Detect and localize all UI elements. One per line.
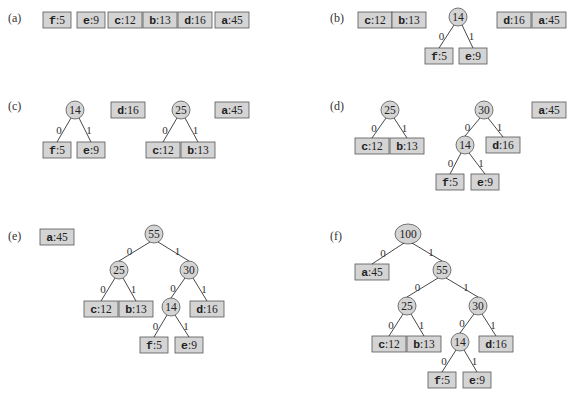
- svg-text:c:12: c:12: [152, 144, 174, 157]
- internal-node-30: 30: [469, 297, 487, 315]
- edge-bit: 1: [131, 283, 137, 295]
- svg-text:a:45: a:45: [221, 14, 243, 27]
- tree-edge: [119, 242, 150, 261]
- svg-text:f:5: f:5: [49, 14, 65, 27]
- edge-bit: 0: [153, 320, 159, 332]
- svg-text:14: 14: [459, 139, 471, 151]
- leaf-node-a: a:45: [355, 264, 389, 280]
- internal-node-14: 14: [162, 298, 180, 316]
- svg-text:30: 30: [478, 104, 490, 116]
- leaf-node-f: f:5: [140, 337, 168, 353]
- panel-label: (a): [8, 11, 21, 25]
- svg-text:14: 14: [454, 336, 466, 348]
- leaf-node-c: c:12: [84, 301, 118, 317]
- svg-text:14: 14: [452, 11, 464, 23]
- edge-bit: 1: [419, 319, 425, 331]
- internal-node-25: 25: [381, 101, 399, 119]
- svg-text:55: 55: [148, 228, 160, 240]
- svg-text:25: 25: [175, 104, 187, 116]
- internal-node-30: 30: [475, 101, 493, 119]
- svg-text:f:5: f:5: [49, 144, 65, 157]
- edge-bit: 0: [415, 281, 421, 293]
- panel-label: (f): [330, 229, 342, 243]
- internal-node-55: 55: [433, 261, 451, 279]
- svg-text:b:13: b:13: [413, 338, 435, 351]
- panel-label: (b): [330, 11, 344, 25]
- panel-label: (d): [330, 99, 344, 113]
- leaf-node-f: f:5: [425, 48, 453, 64]
- leaf-node-b: b:13: [143, 12, 177, 28]
- leaf-node-a: a:45: [40, 229, 74, 245]
- edge-bit: 0: [448, 157, 454, 169]
- svg-text:a:45: a:45: [538, 14, 560, 27]
- svg-text:30: 30: [183, 264, 195, 276]
- leaf-node-c: c:12: [108, 12, 142, 28]
- svg-text:d:16: d:16: [196, 303, 218, 316]
- svg-text:a:45: a:45: [361, 266, 383, 279]
- svg-text:e:9: e:9: [477, 176, 493, 189]
- svg-text:c:12: c:12: [378, 338, 400, 351]
- edge-bit: 0: [127, 245, 133, 257]
- internal-node-14: 14: [449, 8, 467, 26]
- leaf-node-e: e:9: [459, 48, 487, 64]
- tree-edge: [372, 243, 404, 264]
- leaf-node-b: b:13: [119, 301, 153, 317]
- edge-bit: 1: [469, 30, 475, 42]
- edge-bit: 0: [371, 122, 377, 134]
- svg-text:d:16: d:16: [503, 14, 525, 27]
- edge-bit: 1: [86, 124, 92, 136]
- edge-bit: 0: [439, 30, 445, 42]
- svg-text:30: 30: [472, 300, 484, 312]
- edge-bit: 1: [497, 121, 503, 133]
- edge-bit: 0: [100, 283, 106, 295]
- svg-text:a:45: a:45: [46, 231, 68, 244]
- edge-bit: 1: [478, 157, 484, 169]
- edge-bit: 1: [193, 124, 199, 136]
- leaf-node-e: e:9: [471, 174, 499, 190]
- tree-edge: [446, 278, 478, 297]
- edge-bit: 0: [170, 282, 176, 294]
- leaf-node-f: f:5: [43, 12, 71, 28]
- panel-label: (e): [8, 229, 21, 243]
- edge-bit: 0: [441, 355, 447, 367]
- huffman-diagram: (a)(b)(c)(d)(e)(f)f:5e:9c:12b:13d:16a:45…: [0, 0, 576, 401]
- edge-bit: 0: [465, 121, 471, 133]
- svg-text:f:5: f:5: [434, 374, 450, 387]
- leaf-node-d: d:16: [178, 12, 212, 28]
- leaf-node-d: d:16: [111, 102, 145, 118]
- svg-text:f:5: f:5: [442, 176, 458, 189]
- svg-text:25: 25: [401, 300, 413, 312]
- panel-label: (c): [8, 99, 21, 113]
- svg-text:c:12: c:12: [90, 303, 112, 316]
- edge-bit: 1: [463, 281, 469, 293]
- leaf-node-e: e:9: [77, 12, 105, 28]
- leaf-node-e: e:9: [77, 142, 105, 158]
- edge-bit: 0: [459, 317, 465, 329]
- internal-node-25: 25: [172, 101, 190, 119]
- svg-text:b:13: b:13: [125, 303, 147, 316]
- svg-text:c:12: c:12: [364, 14, 386, 27]
- svg-text:c:12: c:12: [114, 14, 136, 27]
- leaf-node-a: a:45: [532, 102, 566, 118]
- svg-text:e:9: e:9: [83, 144, 99, 157]
- internal-node-100: 100: [395, 224, 421, 244]
- edge-bit: 1: [175, 245, 181, 257]
- svg-text:e:9: e:9: [465, 50, 481, 63]
- svg-text:e:9: e:9: [83, 14, 99, 27]
- edge-bit: 1: [201, 283, 207, 295]
- edge-bit: 1: [472, 355, 478, 367]
- svg-text:a:45: a:45: [221, 104, 243, 117]
- svg-text:b:13: b:13: [396, 140, 418, 153]
- leaf-node-e: e:9: [463, 372, 491, 388]
- leaf-node-d: d:16: [190, 301, 224, 317]
- edge-bit: 1: [402, 122, 408, 134]
- leaf-node-c: c:12: [355, 138, 389, 154]
- svg-text:b:13: b:13: [149, 14, 171, 27]
- svg-text:100: 100: [399, 228, 417, 240]
- svg-text:14: 14: [165, 301, 177, 313]
- leaf-node-b: b:13: [390, 138, 424, 154]
- leaf-node-f: f:5: [436, 174, 464, 190]
- leaf-node-b: b:13: [407, 336, 441, 352]
- edge-bit: 1: [428, 246, 434, 258]
- svg-text:e:9: e:9: [181, 339, 197, 352]
